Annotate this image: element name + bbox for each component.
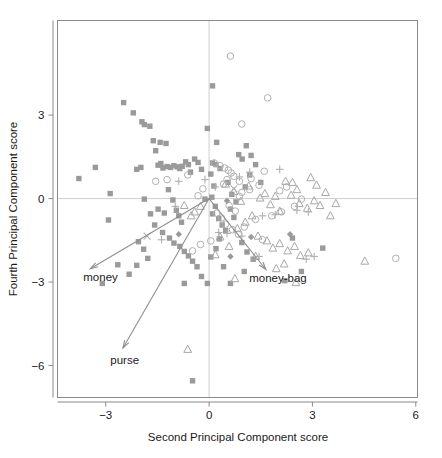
data-point-square <box>108 191 113 196</box>
data-point-square <box>93 165 98 170</box>
data-point-square <box>106 217 111 222</box>
data-point-square <box>142 122 147 127</box>
data-point-square <box>320 245 325 250</box>
data-point-square <box>248 153 253 158</box>
x-tick-label: 6 <box>413 409 419 421</box>
data-point-square <box>194 264 199 269</box>
data-point-square <box>205 126 210 131</box>
data-point-square <box>160 230 165 235</box>
data-point-square <box>141 247 146 252</box>
data-point-square <box>213 246 218 251</box>
data-point-square <box>138 165 143 170</box>
data-point-square <box>162 210 167 215</box>
data-point-square <box>126 272 131 277</box>
data-point-square <box>121 100 126 105</box>
data-point-square <box>147 124 152 129</box>
y-tick-label: −6 <box>31 360 44 372</box>
scatter-plot-figure: moneypursemoney-bag −3036 30−3−6 Second … <box>0 0 442 458</box>
data-point-square <box>148 211 153 216</box>
data-point-square <box>157 140 162 145</box>
data-point-square <box>242 269 247 274</box>
data-point-square <box>190 258 195 263</box>
data-point-square <box>195 160 200 165</box>
data-point-square <box>210 83 215 88</box>
biplot-label-money: money <box>83 271 118 283</box>
data-point-square <box>205 281 210 286</box>
x-axis-title: Second Principal Component score <box>148 431 328 443</box>
data-point-square <box>170 197 175 202</box>
y-tick-label: −3 <box>31 276 44 288</box>
data-point-square <box>221 264 226 269</box>
y-axis-title: Fourth Principal Component score <box>7 122 19 297</box>
biplot-label-money-bag: money-bag <box>249 272 307 284</box>
x-tick-label: 3 <box>309 409 315 421</box>
data-point-square <box>208 171 213 176</box>
data-point-square <box>182 281 187 286</box>
data-point-square <box>199 274 204 279</box>
data-point-square <box>151 138 156 143</box>
y-tick-label: 3 <box>38 109 44 121</box>
data-point-square <box>167 235 172 240</box>
data-point-square <box>171 240 176 245</box>
data-point-square <box>239 156 244 161</box>
data-point-square <box>134 263 139 268</box>
principal-component-scatter-chart: moneypursemoney-bag −3036 30−3−6 Second … <box>0 0 442 458</box>
data-point-square <box>244 143 249 148</box>
data-point-square <box>153 148 158 153</box>
y-tick-label: 0 <box>38 193 44 205</box>
data-point-square <box>174 208 179 213</box>
data-point-square <box>155 206 160 211</box>
data-point-square <box>190 378 195 383</box>
data-point-square <box>152 222 157 227</box>
figure-background <box>0 0 442 458</box>
x-tick-label: −3 <box>99 409 112 421</box>
x-tick-label: 0 <box>206 409 212 421</box>
data-point-square <box>131 110 136 115</box>
data-point-square <box>186 253 191 258</box>
data-point-square <box>231 215 236 220</box>
data-point-square <box>186 162 191 167</box>
data-point-square <box>115 262 120 267</box>
data-point-square <box>179 220 184 225</box>
data-point-square <box>253 162 258 167</box>
data-point-square <box>166 187 171 192</box>
biplot-label-purse: purse <box>110 354 139 366</box>
data-point-square <box>214 140 219 145</box>
data-point-square <box>142 196 147 201</box>
data-point-square <box>244 249 249 254</box>
data-point-square <box>163 141 168 146</box>
data-point-square <box>145 256 150 261</box>
data-point-square <box>199 167 204 172</box>
data-point-square <box>76 176 81 181</box>
